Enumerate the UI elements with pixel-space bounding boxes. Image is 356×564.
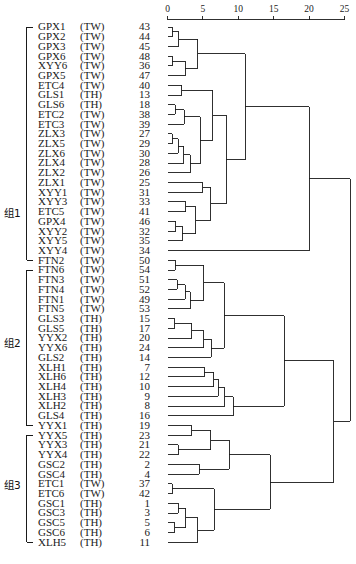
dendrogram-canvas [0,0,356,564]
dendrogram-figure: 组1 组2 组3 GPX1(TW)43GPX2(TW)44GPX3(TW)45G… [0,0,356,564]
